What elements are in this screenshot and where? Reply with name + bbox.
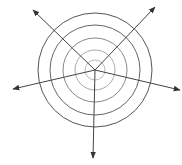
arrow-down-icon [93,70,95,158]
concentric-circles-with-arrows-diagram [0,0,182,165]
arrow-upper-right-icon [95,7,155,70]
radial-arrows [13,7,180,158]
arrow-right-icon [95,70,180,90]
